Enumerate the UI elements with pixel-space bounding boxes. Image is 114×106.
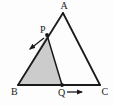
geometry-diagram: A B C P Q xyxy=(0,0,114,106)
geometry-figure: A B C P Q xyxy=(0,0,114,106)
vertex-label-b: B xyxy=(11,86,18,97)
vertex-label-c: C xyxy=(102,86,109,97)
shaded-triangle-bpq xyxy=(18,35,62,85)
vertex-label-q: Q xyxy=(58,87,66,98)
point-marker-p xyxy=(45,33,49,37)
segment-ac xyxy=(63,13,100,85)
vertex-label-p: P xyxy=(40,24,46,35)
vertex-label-a: A xyxy=(61,0,69,11)
